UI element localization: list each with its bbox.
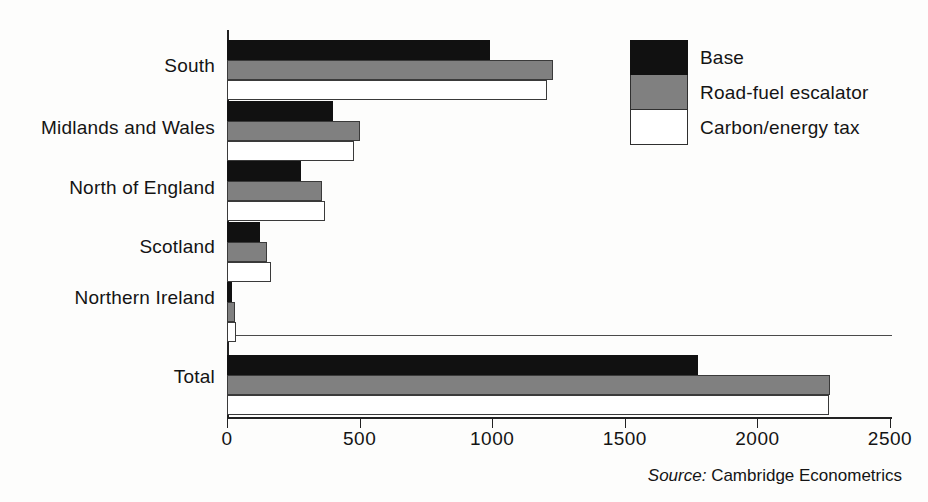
bar-carbon bbox=[227, 262, 271, 282]
category-label-total: Total bbox=[174, 366, 215, 388]
category-label-north-of-england: North of England bbox=[69, 177, 215, 199]
x-axis-tick-label: 1000 bbox=[470, 428, 514, 450]
bar-base bbox=[227, 101, 333, 121]
bar-base bbox=[227, 40, 490, 60]
category-label-northern-ireland: Northern Ireland bbox=[75, 287, 216, 309]
bar-carbon bbox=[227, 395, 829, 415]
x-axis-tick-label: 0 bbox=[221, 428, 232, 450]
category-label-south: South bbox=[164, 55, 215, 77]
source-note: Source: Cambridge Econometrics bbox=[648, 466, 902, 486]
category-label-midlands-and-wales: Midlands and Wales bbox=[41, 117, 215, 139]
bar-carbon bbox=[227, 322, 236, 342]
x-axis-tick bbox=[360, 419, 361, 428]
bar-escalator bbox=[227, 375, 830, 395]
category-label-scotland: Scotland bbox=[139, 236, 215, 258]
x-axis-tick bbox=[492, 419, 493, 428]
legend-label-base: Base bbox=[700, 47, 744, 69]
x-axis-tick bbox=[890, 419, 891, 428]
bar-base bbox=[227, 282, 232, 302]
x-axis-tick-label: 1500 bbox=[603, 428, 647, 450]
bar-base bbox=[227, 161, 301, 181]
x-axis-tick bbox=[625, 419, 626, 428]
legend-item-road-fuel-escalator[interactable]: Road-fuel escalator bbox=[630, 75, 910, 110]
legend-label-carbon-energy-tax: Carbon/energy tax bbox=[700, 117, 860, 139]
bar-escalator bbox=[227, 121, 360, 141]
source-prefix: Source: bbox=[648, 466, 707, 485]
bar-carbon bbox=[227, 80, 547, 100]
bar-carbon bbox=[227, 201, 325, 221]
bar-escalator bbox=[227, 242, 267, 262]
source-text: Cambridge Econometrics bbox=[711, 466, 902, 485]
bar-base bbox=[227, 222, 260, 242]
legend-label-road-fuel-escalator: Road-fuel escalator bbox=[700, 82, 869, 104]
bar-chart-figure: South Midlands and Wales North of Englan… bbox=[0, 0, 928, 502]
legend-item-base[interactable]: Base bbox=[630, 40, 910, 75]
x-axis-tick-label: 500 bbox=[343, 428, 376, 450]
legend-item-carbon-energy-tax[interactable]: Carbon/energy tax bbox=[630, 110, 910, 145]
bar-escalator bbox=[227, 60, 553, 80]
category-axis-labels: South Midlands and Wales North of Englan… bbox=[0, 0, 215, 502]
black-swatch-icon bbox=[630, 40, 688, 75]
x-axis-tick-label: 2000 bbox=[735, 428, 779, 450]
bar-escalator bbox=[227, 302, 235, 322]
x-axis-tick bbox=[227, 419, 228, 428]
x-axis-tick bbox=[757, 419, 758, 428]
legend: Base Road-fuel escalator Carbon/energy t… bbox=[630, 40, 910, 145]
gray-swatch-icon bbox=[630, 75, 688, 110]
bar-base bbox=[227, 355, 698, 375]
bar-escalator bbox=[227, 181, 322, 201]
white-swatch-icon bbox=[630, 110, 688, 145]
bar-carbon bbox=[227, 141, 354, 161]
x-axis-tick-label: 2500 bbox=[868, 428, 912, 450]
